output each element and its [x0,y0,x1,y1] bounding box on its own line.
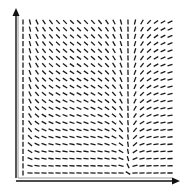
field-mark [98,85,102,88]
field-mark [161,35,166,37]
field-mark [56,64,60,67]
field-mark [49,42,53,46]
field-mark [134,113,137,117]
field-mark [84,78,88,81]
field-mark [154,78,159,80]
field-mark [167,86,172,87]
field-mark [104,151,109,152]
field-mark [29,27,30,32]
field-mark [42,107,46,110]
field-mark [90,136,95,137]
field-mark [160,144,165,145]
field-mark [153,129,158,130]
field-mark [84,56,88,59]
field-mark [120,77,122,82]
field-mark [168,64,173,66]
field-mark [154,71,159,73]
field-mark [168,35,173,37]
field-mark [70,64,74,67]
field-mark [98,27,101,31]
field-mark [70,49,74,52]
field-mark [98,78,102,81]
field-mark [49,100,53,103]
field-mark [120,56,122,61]
field-mark [153,122,158,123]
field-mark [112,151,117,153]
field-mark [63,35,67,39]
field-mark [90,144,95,145]
field-marks [23,19,173,175]
field-mark [134,63,136,68]
field-mark [69,151,74,152]
field-mark [63,49,67,52]
field-mark [168,43,173,45]
field-mark [43,27,46,31]
field-mark [91,27,95,31]
field-mark [84,107,89,109]
field-mark [168,50,173,52]
field-mark [77,129,82,130]
field-mark [91,49,95,52]
field-mark [154,49,158,52]
field-mark [134,106,137,111]
field-mark [141,34,144,38]
field-mark [119,143,123,146]
field-mark [134,27,135,32]
field-mark [154,107,159,109]
field-mark [160,129,165,130]
field-mark [134,99,136,104]
field-mark [84,129,89,131]
field-mark [147,85,151,88]
field-mark [113,41,116,46]
field-mark [98,114,103,116]
field-mark [28,150,32,153]
field-mark [120,113,123,117]
field-mark [27,165,32,166]
field-mark [160,137,165,138]
field-mark [63,85,67,88]
field-mark [56,56,60,59]
field-mark [77,35,81,38]
field-mark [118,165,123,166]
field-mark [111,158,116,159]
field-mark [42,100,46,103]
field-mark [106,20,109,24]
field-mark [83,151,88,152]
field-mark [119,121,122,125]
field-mark [105,78,109,82]
field-mark [36,63,39,67]
field-mark [49,56,53,60]
field-mark [119,150,124,153]
field-mark [42,56,45,60]
field-mark [42,92,46,95]
field-mark [154,93,159,95]
field-mark [112,121,116,124]
field-mark [120,20,121,25]
field-mark [134,48,136,53]
field-mark [120,99,123,104]
field-mark [147,64,151,67]
field-mark [105,63,109,67]
field-mark [127,149,128,154]
field-mark [49,85,53,88]
field-mark [105,114,109,117]
field-mark [161,21,166,24]
field-mark [56,35,60,39]
field-mark [63,122,68,124]
field-mark [105,56,108,60]
field-mark [147,56,151,59]
field-mark [69,144,74,145]
field-mark [134,84,136,89]
field-mark [154,86,159,88]
field-mark [63,42,67,45]
field-mark [49,129,54,131]
field-mark [141,49,144,53]
field-mark [36,20,38,25]
field-mark [120,48,122,53]
field-mark [84,49,88,52]
field-mark [49,114,54,116]
field-mark [49,107,54,110]
field-mark [168,28,173,30]
field-mark [167,115,172,116]
field-mark [29,92,31,97]
